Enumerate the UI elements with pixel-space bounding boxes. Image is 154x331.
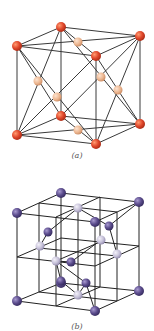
figure-a-caption: (a) bbox=[0, 151, 154, 160]
corner-atom bbox=[12, 296, 22, 306]
face-atom-top bbox=[74, 204, 83, 213]
corner-atom bbox=[56, 188, 66, 198]
fcc-lattice-diagram bbox=[0, 0, 154, 150]
figure-b: (b) bbox=[0, 164, 154, 328]
corner-atom bbox=[12, 208, 22, 218]
interior-atom bbox=[57, 277, 66, 286]
corner-atom bbox=[90, 306, 100, 316]
figure-b-caption: (b) bbox=[0, 322, 154, 331]
face-atom-left bbox=[36, 242, 45, 251]
interior-atom bbox=[105, 222, 114, 231]
interior-atom bbox=[44, 228, 53, 237]
corner-atom bbox=[90, 217, 100, 227]
face-atom-bottom bbox=[74, 291, 83, 300]
corner-atom bbox=[134, 197, 144, 207]
diamond-lattice-diagram bbox=[0, 164, 154, 328]
face-atom-front bbox=[52, 257, 61, 266]
face-atom-back bbox=[97, 236, 106, 245]
interior-atom bbox=[82, 279, 91, 288]
face-atom-right bbox=[113, 250, 122, 259]
interior-atom bbox=[67, 258, 76, 267]
figure-a: (a) bbox=[0, 0, 154, 164]
corner-atom bbox=[134, 286, 144, 296]
